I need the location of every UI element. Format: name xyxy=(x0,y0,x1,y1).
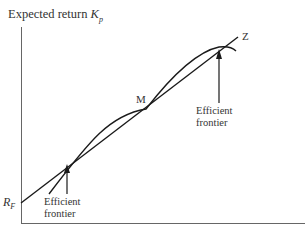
efficient-frontier-label-lower: Efficient frontier xyxy=(44,196,81,220)
y-axis-subscript: p xyxy=(99,15,103,24)
line-end-label: Z xyxy=(242,31,249,42)
annotation-line: Efficient xyxy=(44,196,81,208)
annotation-line: frontier xyxy=(196,117,233,129)
y-axis-label: Expected return Kp xyxy=(8,8,103,24)
annotation-line: Efficient xyxy=(196,105,233,117)
capital-market-line-diagram: Expected return Kp RF Z M Efficient fron… xyxy=(0,0,308,232)
tangency-point-label: M xyxy=(136,94,146,105)
risk-free-label: RF xyxy=(3,196,15,211)
annotation-line: frontier xyxy=(44,208,81,220)
y-axis-symbol: K xyxy=(91,7,99,21)
y-axis-label-text: Expected return xyxy=(8,7,91,21)
efficient-frontier-label-upper: Efficient frontier xyxy=(196,105,233,129)
risk-free-subscript: F xyxy=(10,202,15,211)
